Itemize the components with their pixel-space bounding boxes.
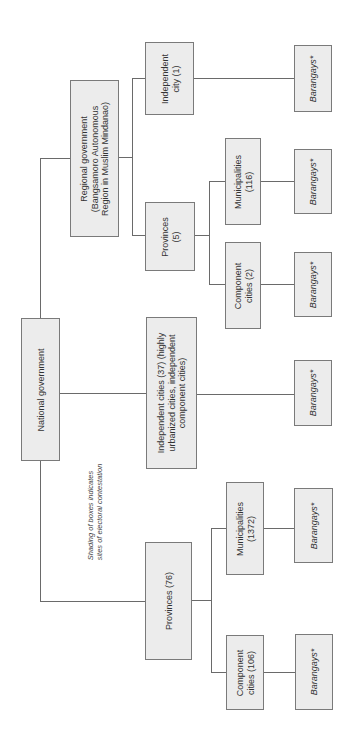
connector-indcity1-to-barangays <box>193 78 294 79</box>
regional-branch-vertical <box>132 78 133 236</box>
node-label: Component cities (106) <box>235 649 256 696</box>
regional-branch-stub <box>118 157 132 158</box>
connector-to-indcity1 <box>132 78 145 79</box>
node-label: Provinces (5) <box>160 217 181 257</box>
node-label: Barangays* <box>308 261 319 308</box>
node-national-government: National government <box>21 318 60 461</box>
shading-note: Shading of boxes indicates sites of elec… <box>86 464 104 561</box>
connector-national-to-indcities <box>59 393 146 394</box>
node-regional-government: Regional government (Bangsamoro Autonomo… <box>70 80 119 237</box>
connector-componentcities106-to-barangays <box>263 672 295 673</box>
node-label: Provinces (76) <box>163 572 174 630</box>
provinces5-branch-stub <box>194 235 209 236</box>
node-municipalities-116: Municipalities (116) <box>225 138 261 225</box>
node-label: Regional government (Bangsamoro Autonomo… <box>79 101 111 215</box>
connector-to-provinces5 <box>132 235 145 236</box>
node-label: National government <box>35 348 46 431</box>
provinces76-branch-vertical <box>211 528 212 673</box>
connector-to-componentcities106 <box>211 672 226 673</box>
provinces5-branch-vertical <box>209 181 210 284</box>
node-provinces-76: Provinces (76) <box>145 542 192 660</box>
node-label: Component cities (2) <box>233 262 254 309</box>
connector-to-componentcities2 <box>209 284 225 285</box>
node-barangays-componentcities2: Barangays* <box>294 252 332 317</box>
node-independent-cities-37: Independent cities (37) (highly urbanize… <box>146 317 197 469</box>
connector-to-municipalities116 <box>209 181 225 182</box>
connector-to-municipalities1372 <box>211 528 226 529</box>
node-component-cities-106: Component cities (106) <box>226 635 264 710</box>
connector-national-to-provinces76 <box>40 601 145 602</box>
node-barangays-indcity1: Barangays* <box>294 45 332 112</box>
connector-municipalities116-to-barangays <box>260 181 294 182</box>
node-component-cities-2: Component cities (2) <box>225 242 261 329</box>
node-label: Municipalities (1372) <box>235 501 256 555</box>
node-label: Municipalities (116) <box>233 154 254 208</box>
connector-national-to-regional <box>40 158 70 159</box>
node-barangays-municipalities1372: Barangays* <box>294 488 333 563</box>
connector-componentcities2-to-barangays <box>260 284 294 285</box>
node-barangays-componentcities106: Barangays* <box>295 634 333 710</box>
node-independent-city-1: Independent city (1) <box>145 42 194 115</box>
node-municipalities-1372: Municipalities (1372) <box>226 482 264 575</box>
node-barangays-municipalities116: Barangays* <box>294 149 332 214</box>
node-barangays-indcities37: Barangays* <box>294 360 332 426</box>
node-label: Barangays* <box>309 649 320 696</box>
node-label: Barangays* <box>308 55 319 102</box>
node-label: Independent city (1) <box>159 53 180 103</box>
node-label: Barangays* <box>308 502 319 549</box>
provinces76-branch-stub <box>191 600 211 601</box>
node-provinces-5: Provinces (5) <box>145 202 195 271</box>
connector-indcities-to-barangays <box>196 394 294 395</box>
node-label: Barangays* <box>308 370 319 417</box>
node-label: Barangays* <box>308 158 319 205</box>
node-label: Independent cities (37) (highly urbanize… <box>156 333 188 454</box>
connector-municipalities1372-to-barangays <box>263 528 294 529</box>
